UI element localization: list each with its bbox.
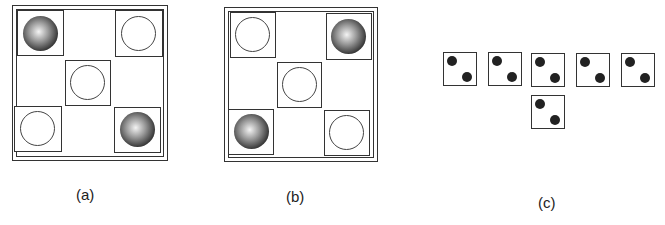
pip-icon (492, 56, 502, 66)
pip-icon (580, 57, 590, 67)
panel-b-cell-center (277, 62, 322, 108)
pip-icon (625, 57, 635, 67)
panel-b-cell-top-right (326, 13, 372, 60)
pip-icon (535, 99, 545, 109)
die-two-pips (576, 53, 610, 87)
open-ball-icon (329, 115, 364, 150)
open-ball-icon (121, 16, 156, 51)
panel-a-cell-center (65, 60, 111, 106)
die-two-pips (443, 52, 477, 86)
shaded-ball-icon (234, 114, 269, 149)
pip-icon (462, 72, 472, 82)
panel-a-cell-top-right (115, 10, 163, 57)
open-ball-icon (282, 67, 317, 102)
open-ball-icon (20, 111, 55, 146)
pip-icon (640, 73, 650, 83)
panel-b-cell-bottom-right (324, 110, 370, 156)
panel-b-cell-top-left (230, 12, 276, 58)
die-two-pips (531, 95, 565, 129)
open-ball-icon (235, 17, 270, 52)
die-two-pips (621, 53, 655, 87)
shaded-ball-icon (23, 16, 58, 51)
shaded-ball-icon (331, 19, 366, 54)
panel-a-cell-top-left (17, 10, 64, 56)
die-two-pips (531, 53, 565, 87)
panel-a-cell-bottom-right (114, 107, 161, 153)
pip-icon (550, 73, 560, 83)
panel-a-label: (a) (76, 186, 94, 203)
die-two-pips (488, 52, 522, 86)
panel-b-cell-bottom-left (228, 109, 274, 155)
panel-c-label: (c) (538, 194, 556, 211)
pip-icon (550, 115, 560, 125)
panel-a-cell-bottom-left (14, 106, 62, 152)
open-ball-icon (70, 65, 105, 100)
pip-icon (535, 57, 545, 67)
pip-icon (507, 72, 517, 82)
pip-icon (595, 73, 605, 83)
shaded-ball-icon (120, 112, 155, 147)
panel-b-label: (b) (286, 188, 304, 205)
pip-icon (447, 56, 457, 66)
